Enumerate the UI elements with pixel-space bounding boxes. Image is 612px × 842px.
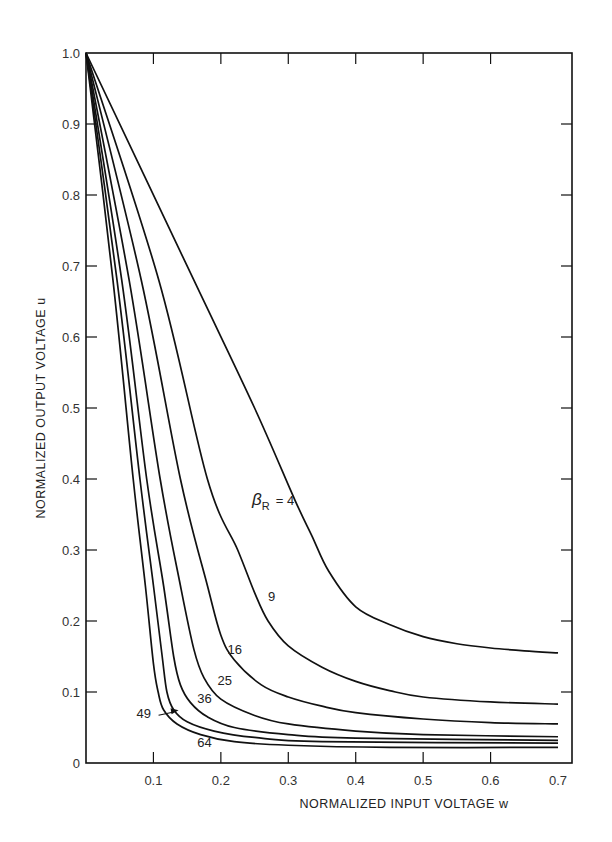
curve-label-25: 25 <box>217 673 231 688</box>
y-tick-label: 0 <box>73 756 80 771</box>
beta-equals: = 4 <box>276 493 294 508</box>
curve-beta-16 <box>86 53 558 724</box>
y-tick-label: 0.6 <box>62 330 80 345</box>
curve-beta-49 <box>86 53 558 743</box>
y-tick-label: 0.3 <box>62 543 80 558</box>
x-tick-label: 0.6 <box>482 773 500 788</box>
x-tick-label: 0.2 <box>212 773 230 788</box>
curve-group <box>86 53 558 748</box>
y-tick-label: 0.9 <box>62 117 80 132</box>
x-tick-label: 0.4 <box>347 773 365 788</box>
x-tick-label: 0.7 <box>549 773 567 788</box>
tick-label-group: 0.10.20.30.40.50.60.700.10.20.30.40.50.6… <box>62 46 567 788</box>
curve-beta-64 <box>86 53 558 748</box>
x-tick-label: 0.3 <box>279 773 297 788</box>
beta-label: βR= 4 <box>251 490 294 512</box>
y-tick-label: 1.0 <box>62 46 80 61</box>
curve-label-9: 9 <box>268 589 275 604</box>
curve-beta-25 <box>86 53 558 737</box>
y-tick-label: 0.7 <box>62 259 80 274</box>
y-tick-label: 0.8 <box>62 188 80 203</box>
curve-label-49: 49 <box>137 706 151 721</box>
curve-label-64: 64 <box>197 735 211 750</box>
y-tick-label: 0.2 <box>62 614 80 629</box>
x-tick-label: 0.5 <box>414 773 432 788</box>
y-tick-label: 0.5 <box>62 401 80 416</box>
y-tick-label: 0.1 <box>62 685 80 700</box>
x-tick-label: 0.1 <box>144 773 162 788</box>
tick-group <box>86 53 572 763</box>
curve-label-36: 36 <box>197 691 211 706</box>
curve-beta-36 <box>86 53 558 740</box>
y-tick-label: 0.4 <box>62 472 80 487</box>
transfer-characteristic-chart: 0.10.20.30.40.50.60.700.10.20.30.40.50.6… <box>0 0 612 842</box>
y-axis-title: NORMALIZED OUTPUT VOLTAGE u <box>34 297 48 518</box>
x-axis-title: NORMALIZED INPUT VOLTAGE w <box>300 797 509 811</box>
curve-label-16: 16 <box>228 642 242 657</box>
plot-frame <box>86 53 572 763</box>
beta-subscript: R <box>262 500 270 512</box>
beta-symbol: β <box>251 490 262 509</box>
